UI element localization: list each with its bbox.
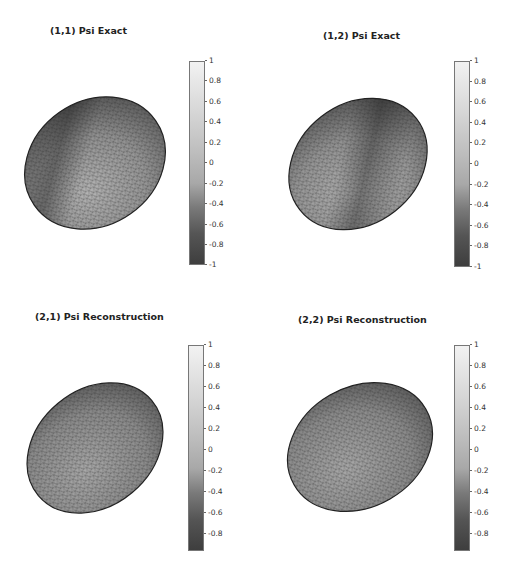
colorbar <box>188 345 204 551</box>
ellipsoid-surface <box>22 374 168 522</box>
panel-title: (2,2) Psi Reconstruction <box>298 314 427 325</box>
ellipsoid-surface <box>283 377 437 517</box>
ellipsoid-surface <box>283 93 433 235</box>
colorbar <box>189 61 205 265</box>
panel-title: (1,1) Psi Exact <box>50 25 127 36</box>
panel-title: (2,1) Psi Reconstruction <box>35 311 164 322</box>
panel-title: (1,2) Psi Exact <box>323 30 400 41</box>
ellipsoid-surface <box>20 88 170 238</box>
colorbar <box>454 345 470 551</box>
colorbar <box>454 61 470 267</box>
